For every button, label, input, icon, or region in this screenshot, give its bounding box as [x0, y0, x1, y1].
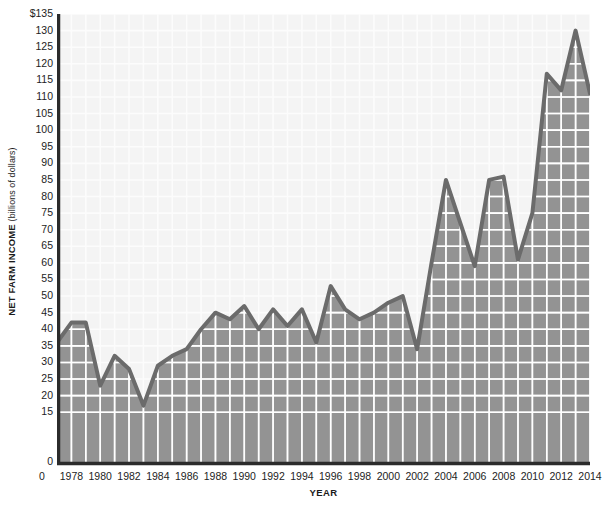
x-axis-origin-label: 0 [35, 470, 49, 482]
x-axis-title: YEAR [57, 487, 590, 498]
plot-area [57, 14, 590, 462]
net-farm-income-chart: NET FARM INCOME (billions of dollars) $1… [0, 0, 606, 506]
chart-svg [57, 14, 590, 468]
x-axis-tick-2014: 2014 [573, 470, 606, 482]
